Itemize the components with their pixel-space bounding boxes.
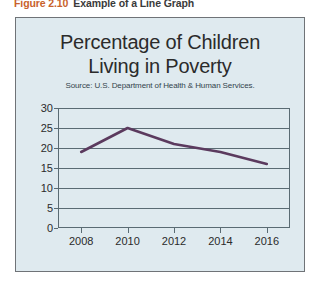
y-axis-tick-label: 25 — [41, 122, 53, 134]
figure-panel: Percentage of Children Living in Poverty… — [15, 17, 305, 272]
data-line — [58, 108, 290, 228]
x-axis-tick-label: 2008 — [69, 235, 93, 247]
chart-title: Percentage of Children Living in Poverty — [16, 30, 304, 78]
plot-frame: 051015202530 20082010201220142016 — [58, 108, 290, 228]
y-axis-tick-label: 30 — [41, 102, 53, 114]
figure-caption: Figure 2.10Example of a Line Graph — [14, 0, 194, 10]
x-axis-tick-label: 2012 — [162, 235, 186, 247]
y-axis-tick-label: 10 — [41, 182, 53, 194]
figure-caption-title: Example of a Line Graph — [73, 0, 194, 9]
x-axis-tick-label: 2014 — [208, 235, 232, 247]
x-axis-tick-mark — [174, 228, 175, 233]
y-axis-tick-label: 20 — [41, 142, 53, 154]
x-axis-tick-mark — [128, 228, 129, 233]
chart-title-line-2: Living in Poverty — [16, 54, 304, 78]
x-axis-tick-mark — [81, 228, 82, 233]
x-axis-tick-mark — [267, 228, 268, 233]
y-axis-tick-label: 0 — [47, 222, 53, 234]
x-axis-tick-label: 2016 — [255, 235, 279, 247]
chart-source-note: Source: U.S. Department of Health & Huma… — [16, 81, 304, 90]
x-axis-tick-label: 2010 — [115, 235, 139, 247]
figure-number: Figure 2.10 — [14, 0, 68, 9]
y-axis-tick-mark — [54, 228, 58, 229]
y-axis-tick-label: 5 — [47, 202, 53, 214]
plot-area: 051015202530 20082010201220142016 — [58, 91, 291, 247]
y-axis-tick-label: 15 — [41, 162, 53, 174]
chart-title-line-1: Percentage of Children — [16, 30, 304, 54]
x-axis-tick-mark — [220, 228, 221, 233]
